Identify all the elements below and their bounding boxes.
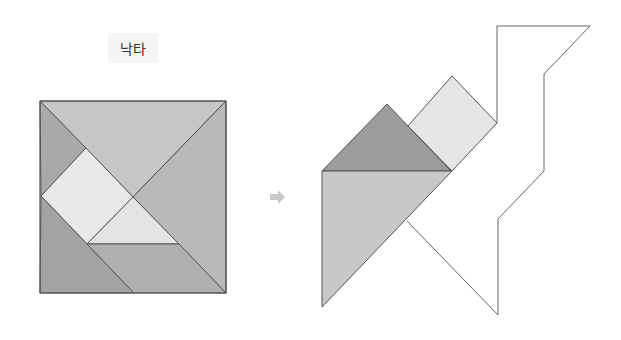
tangram-square <box>40 101 226 293</box>
tangram-diagram <box>0 0 621 340</box>
camel-figure <box>322 26 590 315</box>
camel-body-large-triangle <box>322 171 452 307</box>
right-arrow-icon <box>270 190 285 204</box>
